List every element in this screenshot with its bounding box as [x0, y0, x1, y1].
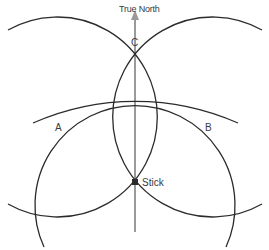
- stick-marker: [132, 179, 138, 185]
- stick-label: Stick: [142, 177, 164, 188]
- true-north-label: True North: [119, 4, 160, 14]
- point-c-label: C: [131, 37, 138, 48]
- point-b-label: B: [205, 122, 212, 133]
- point-a-label: A: [55, 122, 62, 133]
